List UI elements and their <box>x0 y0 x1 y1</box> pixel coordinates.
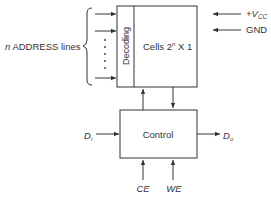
we-label: WE <box>166 183 182 194</box>
ce-label: CE <box>136 183 150 194</box>
gnd-label: GND <box>246 24 267 35</box>
do-label: Do <box>223 130 234 142</box>
decoding-label: Decoding <box>121 27 131 65</box>
di-label: Di <box>84 130 93 142</box>
memory-block-diagram: n ADDRESS lines Decoding Cells 2n X 1 +V… <box>0 0 271 198</box>
ellipsis-dots <box>104 39 106 69</box>
cells-label: Cells 2n X 1 <box>143 41 192 52</box>
address-brace <box>83 8 92 85</box>
control-label: Control <box>143 129 174 140</box>
vcc-label: +VCC <box>246 8 268 20</box>
address-label: n ADDRESS lines <box>5 41 81 52</box>
